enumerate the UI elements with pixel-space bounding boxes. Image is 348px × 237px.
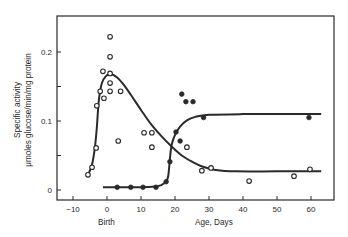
filled-data-point	[174, 130, 179, 135]
open-data-point	[108, 55, 113, 60]
open-data-point	[118, 89, 123, 94]
open-data-point	[292, 174, 297, 179]
x-axis-ticks: −100102030405060	[66, 196, 316, 214]
filled-data-point	[201, 115, 206, 120]
x-tick-label: 60	[307, 205, 316, 214]
y-axis-label: Specific activity μmoles glucose/min/mg …	[13, 53, 33, 167]
filled-data-point	[141, 185, 146, 190]
y-axis-label-line2: μmoles glucose/min/mg protein	[24, 53, 33, 167]
open-data-point	[102, 96, 107, 101]
open-data-point	[185, 145, 190, 150]
filled-data-point	[307, 115, 312, 120]
open-data-point	[308, 167, 313, 172]
open-data-point	[108, 81, 113, 86]
open-data-point	[108, 71, 113, 76]
filled-data-point	[180, 92, 185, 97]
open-data-point	[94, 146, 99, 151]
y-tick-label: 0	[48, 186, 53, 195]
open-data-point	[209, 166, 214, 171]
x-tick-label: 20	[171, 205, 180, 214]
open-data-point	[86, 173, 91, 178]
x-tick-label: 0	[105, 205, 110, 214]
x-axis-label: Age, Days	[195, 218, 233, 227]
open-data-point	[150, 130, 155, 135]
x-tick-label: −10	[66, 205, 80, 214]
open-data-point	[108, 35, 113, 40]
filled-data-point	[115, 185, 120, 190]
filled-data-point	[178, 139, 183, 144]
x-tick-label: 30	[205, 205, 214, 214]
filled-data-point	[191, 99, 196, 104]
open-data-point	[98, 89, 103, 94]
x-tick-label: 10	[137, 205, 146, 214]
y-axis-ticks: 00.10.2	[41, 48, 61, 195]
filled-data-point	[184, 99, 189, 104]
open-data-point	[116, 139, 121, 144]
open-circles-curve	[88, 74, 321, 175]
filled-data-point	[164, 179, 169, 184]
y-tick-label: 0.1	[41, 117, 53, 126]
y-tick-label: 0.2	[41, 48, 53, 57]
open-data-point	[95, 104, 100, 109]
chart: −100102030405060 00.10.2 Specific activi…	[0, 0, 348, 237]
x-tick-label: 50	[273, 205, 282, 214]
open-data-point	[90, 165, 95, 170]
filled-circles-curve	[103, 114, 321, 187]
open-data-point	[200, 168, 205, 173]
open-data-point	[150, 145, 155, 150]
open-data-point	[142, 130, 147, 135]
open-data-point	[108, 89, 113, 94]
open-data-point	[247, 179, 252, 184]
filled-data-point	[168, 159, 173, 164]
filled-data-point	[154, 185, 159, 190]
open-data-point	[101, 69, 106, 74]
x-tick-label: 40	[239, 205, 248, 214]
birth-annotation: Birth	[98, 218, 115, 227]
filled-data-point	[129, 185, 134, 190]
y-axis-label-line1: Specific activity	[13, 81, 22, 138]
